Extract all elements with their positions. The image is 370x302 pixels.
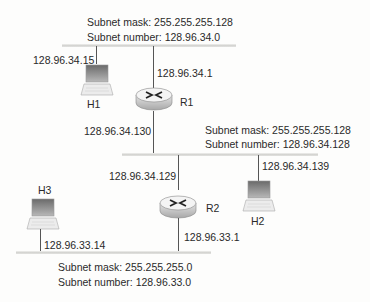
middle-subnet-mask-label: Subnet mask: 255.255.255.128 [205,124,351,136]
r1-top-link [153,46,154,88]
top-subnet-mask-label: Subnet mask: 255.255.255.128 [87,16,233,28]
h3-name-label: H3 [38,184,51,196]
r1-bottom-interface-label: 128.96.34.130 [84,125,151,137]
network-diagram: Subnet mask: 255.255.255.128 Subnet numb… [0,0,370,302]
r1-router-icon [134,86,174,116]
r2-top-interface-label: 128.96.34.129 [109,170,176,182]
bottom-subnet-mask-label: Subnet mask: 255.255.255.0 [58,261,192,273]
h3-laptop-icon [26,198,60,234]
h3-link [40,229,41,252]
middle-subnet-bus [122,153,318,156]
r1-name-label: R1 [180,96,193,108]
h3-ip-label: 128.96.33.14 [44,239,105,251]
r2-name-label: R2 [206,202,219,214]
r2-bottom-link [178,218,179,252]
r2-top-link [178,155,179,190]
h2-link [258,155,259,182]
r1-top-interface-label: 128.96.34.1 [157,67,212,79]
top-subnet-number-label: Subnet number: 128.96.34.0 [87,31,220,43]
h1-laptop-icon [80,64,114,100]
h2-ip-label: 128.96.34.139 [262,160,329,172]
h2-laptop-icon [242,180,276,216]
r1-bottom-link [153,111,154,154]
bottom-subnet-number-label: Subnet number: 128.96.33.0 [58,276,191,288]
bottom-subnet-bus [16,251,211,254]
r2-bottom-interface-label: 128.96.33.1 [184,231,239,243]
h2-name-label: H2 [251,215,264,227]
top-subnet-bus [62,44,236,47]
middle-subnet-number-label: Subnet number: 128.96.34.128 [205,138,350,150]
h1-link [96,46,97,64]
h1-name-label: H1 [87,98,100,110]
